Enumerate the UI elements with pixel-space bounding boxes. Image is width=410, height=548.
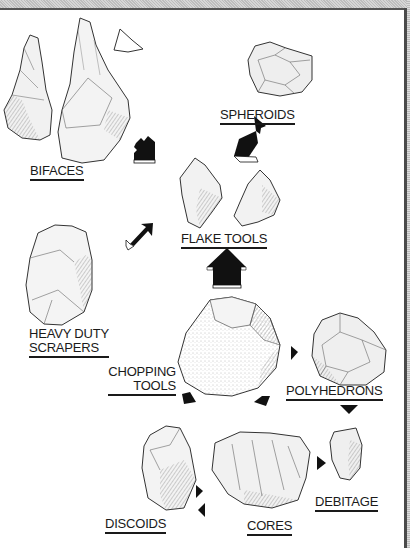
arrow-cores-to-discoids bbox=[198, 503, 205, 517]
arrow-to-cores bbox=[254, 396, 270, 406]
label-chopping-line2: TOOLS bbox=[108, 379, 176, 396]
flake-tool-stone-left bbox=[180, 158, 222, 228]
arrow-cores-to-debitage bbox=[317, 456, 326, 470]
arrow-to-discoids bbox=[182, 392, 196, 404]
debitage-stone bbox=[330, 428, 362, 480]
polyhedron-stone bbox=[312, 313, 386, 385]
label-spheroids: SPHEROIDS bbox=[220, 108, 295, 125]
arrow-to-debitage-down bbox=[340, 405, 358, 414]
label-heavy-duty-line2: SCRAPERS bbox=[29, 341, 109, 358]
label-heavy-duty-line1: HEAVY DUTY bbox=[29, 327, 109, 341]
label-chopping-line1: CHOPPING bbox=[100, 365, 176, 379]
heavy-duty-scraper-stone bbox=[26, 225, 92, 325]
diagram-canvas bbox=[0, 0, 410, 548]
label-discoids: DISCOIDS bbox=[105, 517, 166, 534]
label-flake-tools: FLAKE TOOLS bbox=[181, 232, 267, 249]
arrow-to-flake-tools bbox=[207, 248, 246, 288]
label-cores: CORES bbox=[247, 519, 292, 536]
arrow-to-polyhedrons bbox=[291, 346, 298, 360]
label-bifaces: BIFACES bbox=[30, 164, 84, 181]
arrow-discoids-to-cores bbox=[196, 485, 203, 498]
chopping-tool-stone bbox=[178, 297, 280, 396]
label-debitage: DEBITAGE bbox=[315, 495, 378, 512]
flake-outline bbox=[114, 29, 143, 52]
flake-tool-stone-right bbox=[234, 170, 280, 226]
core-stone bbox=[212, 432, 310, 508]
arrow-from-scrapers bbox=[126, 223, 153, 250]
spheroid-stone bbox=[248, 42, 312, 96]
biface-stone-left bbox=[4, 35, 52, 140]
arrow-to-bifaces bbox=[134, 136, 155, 163]
label-polyhedrons: POLYHEDRONS bbox=[286, 384, 383, 401]
discoid-stone bbox=[142, 426, 196, 510]
